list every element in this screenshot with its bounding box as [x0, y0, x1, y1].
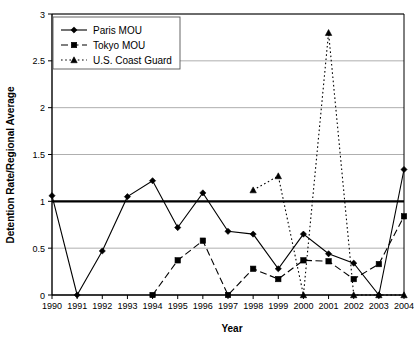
y-tick-label: 3: [40, 10, 45, 20]
x-tick-label: 1991: [67, 301, 87, 311]
x-tick-label: 2002: [344, 301, 364, 311]
x-tick-label: 1998: [243, 301, 263, 311]
x-tick-label: 2004: [394, 301, 414, 311]
y-tick-label: 1: [40, 197, 45, 207]
chart-legend: Paris MOUTokyo MOUU.S. Coast Guard: [53, 17, 180, 69]
y-tick-label: 0: [40, 291, 45, 301]
y-tick-label: 0.5: [32, 244, 45, 254]
x-tick-label: 1995: [168, 301, 188, 311]
data-point-marker-square: [301, 258, 306, 263]
y-axis-title: Detention Rate/Regional Average: [5, 86, 16, 244]
x-tick-label: 2003: [369, 301, 389, 311]
x-tick-label: 1990: [42, 301, 62, 311]
data-point-marker-square: [200, 238, 205, 243]
line-chart: 00.511.522.53 19901991199219931994199519…: [0, 0, 414, 341]
x-tick-label: 1992: [92, 301, 112, 311]
data-point-marker-square: [376, 261, 381, 266]
x-tick-label: 1996: [193, 301, 213, 311]
legend-label: U.S. Coast Guard: [93, 55, 172, 66]
legend-label: Paris MOU: [93, 25, 142, 36]
data-point-marker-square: [326, 259, 331, 264]
x-axis-title: Year: [221, 323, 242, 334]
y-tick-label: 2: [40, 103, 45, 113]
y-tick-label: 2.5: [32, 56, 45, 66]
data-point-marker-square: [71, 42, 76, 47]
x-tick-label: 2000: [293, 301, 313, 311]
x-tick-label: 1999: [268, 301, 288, 311]
x-tick-label: 1994: [143, 301, 163, 311]
data-point-marker-square: [175, 258, 180, 263]
data-point-marker-square: [401, 214, 406, 219]
chart-container: 00.511.522.53 19901991199219931994199519…: [0, 0, 414, 341]
legend-label: Tokyo MOU: [93, 40, 145, 51]
y-tick-label: 1.5: [32, 150, 45, 160]
x-tick-label: 1997: [218, 301, 238, 311]
x-tick-label: 2001: [319, 301, 339, 311]
data-point-marker-square: [250, 266, 255, 271]
data-point-marker-square: [276, 276, 281, 281]
x-tick-label: 1993: [117, 301, 137, 311]
